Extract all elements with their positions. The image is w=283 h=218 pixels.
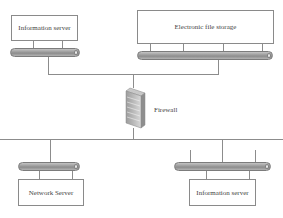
network-server-label: Network Server xyxy=(29,189,74,197)
network-bus-bottom-left xyxy=(18,162,80,171)
file-storage-box: Electronic file storage xyxy=(137,10,274,44)
connector xyxy=(0,139,283,140)
connector xyxy=(190,150,191,162)
info-server-bottom-box: Information server xyxy=(189,179,256,206)
network-bus-bottom-right xyxy=(174,162,271,171)
connector xyxy=(218,60,219,75)
connector xyxy=(133,74,134,88)
file-storage-label: Electronic file storage xyxy=(175,23,237,31)
network-bus-top-right xyxy=(137,51,273,60)
firewall-label: Firewall xyxy=(154,106,177,114)
connector xyxy=(50,139,51,163)
network-server-box: Network Server xyxy=(18,179,84,206)
connector xyxy=(222,139,223,162)
firewall-icon xyxy=(124,87,146,129)
info-server-bottom-label: Information server xyxy=(196,189,248,197)
network-bus-top-left xyxy=(10,48,80,57)
connector xyxy=(48,57,49,75)
info-server-top-label: Information server xyxy=(18,24,70,32)
info-server-top-box: Information server xyxy=(11,15,78,41)
connector xyxy=(255,150,256,162)
